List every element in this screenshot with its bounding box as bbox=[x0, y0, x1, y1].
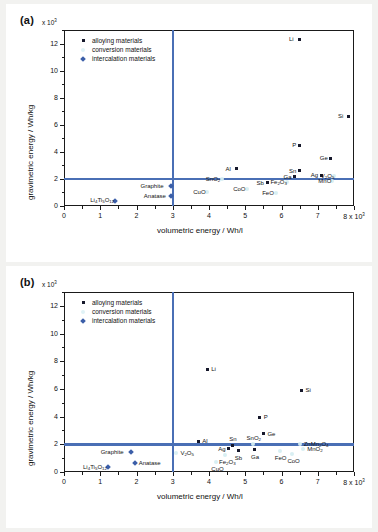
y-tick-label: 6 bbox=[40, 121, 58, 128]
y-tick bbox=[60, 152, 64, 153]
panel-a: (a)x 103012345678 x 103024681012gravimet… bbox=[6, 4, 372, 262]
y-tick bbox=[60, 306, 64, 307]
data-point-label: Graphite bbox=[141, 183, 164, 189]
data-point-label: Li4Ti5O12 bbox=[90, 197, 114, 203]
x-tick bbox=[64, 206, 65, 210]
data-point-label: P bbox=[292, 142, 296, 148]
x-tick bbox=[173, 206, 174, 210]
legend-entry-label: intercalation materials bbox=[92, 317, 155, 324]
x-tick-label: 0 bbox=[48, 478, 80, 485]
data-point bbox=[298, 442, 302, 446]
x-minor-tick bbox=[191, 206, 192, 209]
y-minor-tick bbox=[62, 165, 65, 166]
x-minor-tick bbox=[118, 206, 119, 209]
data-point-label: CuO bbox=[211, 466, 223, 472]
data-point bbox=[298, 38, 301, 41]
data-point-label: Anatase bbox=[139, 460, 161, 466]
y-minor-tick bbox=[62, 84, 65, 85]
y-tick-label: 6 bbox=[40, 385, 58, 392]
y-tick bbox=[60, 389, 64, 390]
y-tick bbox=[60, 71, 64, 72]
data-point bbox=[266, 181, 269, 184]
data-point-label: Li4Ti5O12 bbox=[83, 464, 107, 470]
x-tick bbox=[245, 206, 246, 210]
x-tick bbox=[282, 206, 283, 210]
y-minor-tick bbox=[62, 192, 65, 193]
data-point-label: SnO2 bbox=[206, 176, 220, 182]
y-tick bbox=[60, 444, 64, 445]
panel-b-plot: (b)x 103012345678 x 103024681012gravimet… bbox=[6, 266, 372, 528]
y-minor-tick bbox=[62, 320, 65, 321]
x-axis-title: volumetric energy / Wh/l bbox=[157, 492, 243, 501]
x-tick-label: 5 bbox=[229, 212, 261, 219]
y-tick bbox=[60, 361, 64, 362]
x-tick-label: 4 bbox=[193, 212, 225, 219]
x-tick bbox=[100, 206, 101, 210]
data-point bbox=[293, 175, 296, 178]
x-tick bbox=[100, 472, 101, 476]
data-point-label: FeO bbox=[275, 455, 287, 461]
y-tick bbox=[60, 98, 64, 99]
data-point-label: MnO bbox=[318, 178, 331, 184]
y-tick bbox=[60, 334, 64, 335]
legend-entry: alloying materials bbox=[78, 298, 155, 307]
y-tick bbox=[60, 179, 64, 180]
y-tick-label: 8 bbox=[40, 357, 58, 364]
data-point bbox=[197, 440, 200, 443]
data-point-label: MnO2 bbox=[307, 446, 322, 452]
x-tick-label: 2 bbox=[121, 212, 153, 219]
y-tick bbox=[60, 417, 64, 418]
data-point-label: Fe2O3 bbox=[270, 179, 287, 185]
conversion-circle-marker bbox=[78, 310, 88, 314]
data-point-label: Graphite bbox=[101, 449, 124, 455]
data-point bbox=[329, 157, 332, 160]
data-point bbox=[235, 167, 238, 170]
y-tick-label: 2 bbox=[40, 440, 58, 447]
x-minor-tick bbox=[336, 472, 337, 475]
data-point bbox=[220, 177, 224, 181]
y-tick-label: 10 bbox=[40, 67, 58, 74]
data-point bbox=[253, 448, 256, 451]
data-point bbox=[237, 449, 240, 452]
y-tick-label: 10 bbox=[40, 330, 58, 337]
figure-page: (a)x 103012345678 x 103024681012gravimet… bbox=[0, 0, 378, 532]
data-point-label: Al bbox=[202, 438, 207, 444]
x-tick bbox=[318, 472, 319, 476]
x-minor-tick bbox=[227, 472, 228, 475]
data-point-label: FeO bbox=[262, 190, 274, 196]
x-tick-label: 7 bbox=[302, 212, 334, 219]
x-tick bbox=[137, 472, 138, 476]
x-tick bbox=[173, 472, 174, 476]
data-point-label: Anatase bbox=[144, 193, 166, 199]
legend: alloying materials conversion materials … bbox=[78, 298, 155, 325]
y-tick bbox=[60, 44, 64, 45]
conversion-circle-marker bbox=[78, 48, 88, 52]
x-minor-tick bbox=[155, 472, 156, 475]
legend-entry-label: conversion materials bbox=[92, 46, 152, 53]
panel-label: (a) bbox=[20, 14, 34, 26]
y-tick-label: 12 bbox=[40, 302, 58, 309]
x-tick-label: 8 x 103 bbox=[338, 212, 370, 220]
legend-entry: conversion materials bbox=[78, 307, 155, 316]
y-axis-title: gravimetric energy / Wh/kg bbox=[26, 105, 35, 200]
legend-entry: intercalation materials bbox=[78, 54, 155, 63]
y-tick-label: 4 bbox=[40, 413, 58, 420]
x-minor-tick bbox=[155, 206, 156, 209]
y-tick-label: 2 bbox=[40, 175, 58, 182]
y-axis-multiplier: x 103 bbox=[42, 18, 57, 26]
x-minor-tick bbox=[300, 472, 301, 475]
data-point-label: Sn bbox=[229, 436, 236, 442]
data-point bbox=[206, 368, 209, 371]
panel-b: (b)x 103012345678 x 103024681012gravimet… bbox=[6, 266, 372, 528]
legend-entry-label: alloying materials bbox=[92, 299, 142, 306]
x-tick-label: 6 bbox=[266, 478, 298, 485]
y-minor-tick bbox=[62, 111, 65, 112]
data-point-label: Al bbox=[226, 166, 231, 172]
y-tick-label: 4 bbox=[40, 148, 58, 155]
data-point-label: Ag bbox=[311, 172, 318, 178]
x-tick bbox=[137, 206, 138, 210]
x-minor-tick bbox=[263, 472, 264, 475]
x-tick-label: 4 bbox=[193, 478, 225, 485]
y-minor-tick bbox=[62, 292, 65, 293]
alloy-square-marker bbox=[78, 301, 88, 304]
